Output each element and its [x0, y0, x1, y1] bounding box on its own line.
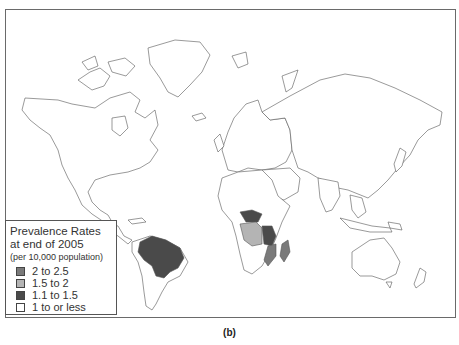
caribbean — [128, 218, 146, 224]
australia — [352, 238, 400, 280]
tasmania — [386, 282, 392, 288]
greenland — [148, 40, 210, 97]
iceland — [192, 113, 206, 121]
legend-item: 1.5 to 2 — [10, 277, 116, 289]
india — [318, 178, 340, 212]
legend-label: 1.1 to 1.5 — [32, 289, 78, 301]
svalbard — [232, 52, 248, 68]
legend-title-line2: at end of 2005 — [10, 238, 116, 251]
north-america — [22, 92, 158, 222]
legend-swatch — [16, 267, 25, 276]
southeast-asia — [350, 195, 366, 218]
legend-label: 2 to 2.5 — [32, 265, 69, 277]
canadian-arctic — [78, 56, 135, 90]
map-legend: Prevalence Rates at end of 2005 (per 10,… — [5, 220, 117, 315]
legend-swatch — [16, 291, 25, 300]
legend-item: 2 to 2.5 — [10, 265, 116, 277]
legend-swatch — [16, 303, 25, 312]
legend-subtitle: (per 10,000 population) — [10, 251, 116, 263]
legend-title: Prevalence Rates — [10, 225, 116, 238]
legend-item: 1 to or less — [10, 301, 116, 313]
legend-swatch — [16, 279, 25, 288]
legend-item: 1.1 to 1.5 — [10, 289, 116, 301]
novaya-zemlya — [282, 70, 298, 92]
figure-caption: (b) — [0, 327, 459, 338]
legend-label: 1.5 to 2 — [32, 277, 69, 289]
legend-label: 1 to or less — [32, 301, 86, 313]
madagascar — [280, 240, 290, 262]
indonesia — [340, 218, 392, 232]
new-zealand — [414, 268, 426, 288]
